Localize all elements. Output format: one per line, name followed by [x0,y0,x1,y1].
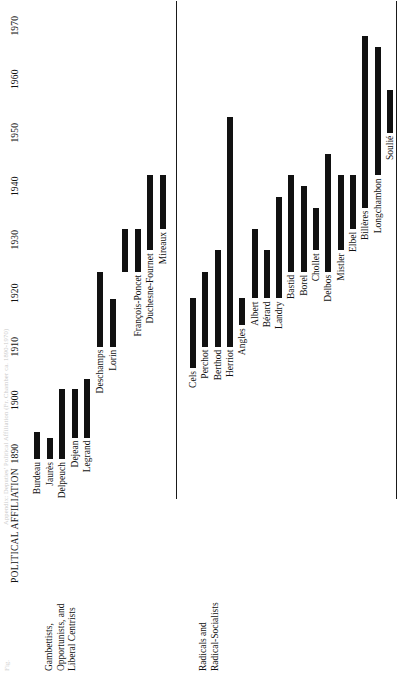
running-head-text: Appendix: Deputies' Political Affiliatio… [2,329,9,525]
axis-tick-label: 1950 [10,123,20,143]
timeline-bar [375,47,381,175]
timeline-bar-label: Jaurès [45,462,55,486]
timeline-bar [239,299,245,326]
timeline-bar [215,250,221,346]
timeline-bar-label: Albert [250,301,260,325]
timeline-bar [288,175,294,271]
group-separator-rule [396,1,397,499]
axis-tick-label: 1920 [10,283,20,303]
timeline-bar-label: Bérard [262,301,272,327]
timeline-bar [147,175,153,250]
timeline-bar-label: Angles [237,328,247,355]
group-caption: Radicals andRadical-Socialists [198,602,221,671]
timeline-bar-label: Duchesne-Fournet [145,253,155,323]
axis-tick-label: 1910 [10,337,20,357]
timeline-bar [135,229,141,272]
axis-tick-label: 1940 [10,176,20,196]
group-caption-line: Radicals and [198,602,210,671]
group-caption: Gambettists,Opportunists, andLiberal Cen… [44,603,79,671]
group-caption-line: Liberal Centrists [67,603,79,671]
timeline-bar [34,432,40,459]
timeline-bar-label: Perchot [200,350,210,379]
timeline-bar-label: Landry [274,301,284,328]
timeline-bar [227,117,233,347]
timeline-bar-label: Burdeau [32,462,42,494]
timeline-bar [301,186,307,272]
timeline-bar-label: Dejean [70,441,80,468]
axis-title: POLITICAL AFFILIATION [10,468,20,583]
timeline-bar [313,208,319,251]
timeline-bar [190,299,196,369]
axis-tick-label: 1930 [10,230,20,250]
axis-tick-label: 1890 [10,444,20,464]
timeline-bar-label: Mireaux [158,232,168,264]
axis-tick-label: 1900 [10,390,20,410]
timeline-bar-label: Lorin [108,350,118,371]
timeline-bar-label: Mistler [336,253,346,280]
timeline-bar-label: François-Poncet [133,275,143,337]
figure-number-label: Fig. [3,660,11,671]
group-separator-rule [176,1,177,499]
timeline-bar-label: Legrand [82,441,92,473]
timeline-bar [350,175,356,228]
timeline-bar [264,250,270,298]
timeline-bar [202,272,208,347]
timeline-bar [47,438,53,459]
timeline-bar-label: Soulié [385,136,395,160]
timeline-bar [59,389,65,459]
timeline-bar [338,175,344,250]
timeline-bar-label: Deschamps [95,350,105,394]
axis-tick-label: 1970 [10,16,20,36]
timeline-bar [110,299,116,347]
timeline-bar [122,229,128,272]
figure-canvas: Fig. Appendix: Deputies' Political Affil… [0,0,400,675]
timeline-bar-label: Herriot [225,350,235,377]
timeline-bar [276,197,282,299]
timeline-bar-label: Longchambon [373,178,383,233]
timeline-bar-label: Cels [188,371,198,388]
timeline-bar-label: Elbel [348,232,358,252]
timeline-bar-label: Billères [360,211,370,241]
rotated-page-frame: Fig. Appendix: Deputies' Political Affil… [0,0,400,675]
timeline-bar-label: Berthod [213,350,223,381]
timeline-bar [84,379,90,438]
group-caption-line: Radical-Socialists [210,602,222,671]
timeline-bar [325,154,331,272]
group-caption-line: Opportunists, and [56,603,68,671]
timeline-bar-label: Chollet [311,253,321,281]
timeline-bar [387,90,393,133]
timeline-bar [160,175,166,228]
timeline-bar-label: Borel [299,275,309,296]
axis-tick-label: 1960 [10,69,20,89]
timeline-bar [252,229,258,299]
timeline-bar-label: Bastid [286,275,296,299]
group-caption-line: Gambettists, [44,603,56,671]
timeline-bar [72,389,78,437]
timeline-bar [362,36,368,207]
timeline-bar [97,272,103,347]
timeline-bar-label: Delbos [323,275,333,302]
timeline-bar-label: Delpeuch [57,462,67,498]
